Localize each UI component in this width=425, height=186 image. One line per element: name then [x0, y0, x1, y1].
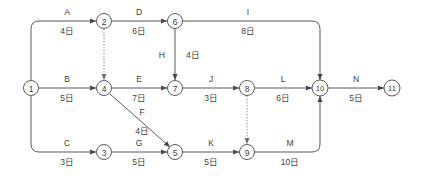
activity-L-duration: 6日 — [276, 93, 290, 103]
activity-E-duration: 7日 — [132, 93, 146, 103]
activity-H-duration: 4日 — [186, 50, 200, 60]
activity-J-name: J — [209, 74, 213, 84]
node-5: 5 — [168, 145, 183, 160]
node-11: 11 — [384, 80, 400, 96]
node-8-label: 8 — [245, 84, 250, 94]
node-9: 9 — [240, 145, 255, 160]
activity-B-duration: 5日 — [60, 93, 74, 103]
activity-M-duration: 10日 — [281, 157, 299, 167]
activity-A-name: A — [64, 7, 70, 17]
activity-H-name: H — [159, 50, 165, 60]
node-3-label: 3 — [102, 148, 107, 158]
node-7-label: 7 — [173, 84, 178, 94]
activity-D-name: D — [136, 7, 142, 17]
activity-A-duration: 4日 — [60, 26, 74, 36]
network-diagram: 1 2 3 4 5 6 7 — [0, 0, 425, 186]
activity-G-duration: 5日 — [132, 157, 146, 167]
network-diagram-canvas: 1 2 3 4 5 6 7 — [0, 0, 425, 186]
activity-C-duration: 3日 — [60, 157, 74, 167]
activity-C-name: C — [64, 138, 70, 148]
activity-G-name: G — [136, 138, 143, 148]
node-4-label: 4 — [102, 84, 107, 94]
activity-N-name: N — [353, 74, 359, 84]
node-11-label: 11 — [388, 84, 396, 93]
activity-I-duration: 8日 — [241, 26, 255, 36]
node-9-label: 9 — [245, 148, 250, 158]
activity-L-name: L — [281, 74, 286, 84]
node-2: 2 — [97, 14, 112, 29]
node-7: 7 — [168, 81, 183, 96]
node-2-label: 2 — [102, 17, 107, 27]
node-4: 4 — [97, 81, 112, 96]
activity-M-name: M — [286, 138, 293, 148]
node-3: 3 — [97, 145, 112, 160]
activity-B-name: B — [64, 74, 70, 84]
activity-F-name: F — [139, 107, 144, 117]
activity-K-name: K — [208, 138, 214, 148]
activity-I-name: I — [247, 7, 249, 17]
node-6-label: 6 — [173, 17, 178, 27]
node-6: 6 — [168, 14, 183, 29]
node-1: 1 — [24, 81, 39, 96]
node-10: 10 — [312, 80, 328, 96]
activity-K-duration: 5日 — [204, 157, 218, 167]
activity-D-duration: 6日 — [132, 26, 146, 36]
node-8: 8 — [240, 81, 255, 96]
activity-E-name: E — [136, 74, 142, 84]
node-10-label: 10 — [316, 84, 324, 93]
activity-N-duration: 5日 — [349, 93, 363, 103]
node-5-label: 5 — [173, 148, 178, 158]
activity-F-duration: 4日 — [135, 126, 149, 136]
node-1-label: 1 — [29, 84, 34, 94]
edges-layer — [31, 21, 384, 152]
activity-J-duration: 3日 — [204, 93, 218, 103]
